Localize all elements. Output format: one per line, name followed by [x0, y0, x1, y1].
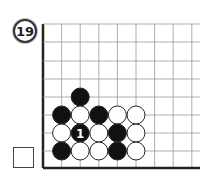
white-stone — [53, 124, 71, 142]
white-stone — [127, 124, 145, 142]
white-stone-shape — [90, 142, 108, 160]
white-stone — [90, 124, 108, 142]
white-stone — [127, 106, 145, 124]
move-number-label: 1 — [76, 127, 84, 141]
white-stone-shape — [127, 106, 145, 124]
black-stone — [90, 106, 108, 124]
black-stone-shape — [53, 106, 71, 124]
white-stone — [108, 106, 126, 124]
white-stone — [71, 106, 89, 124]
black-stone-shape — [108, 124, 126, 142]
white-stone-shape — [71, 142, 89, 160]
black-stone — [53, 142, 71, 160]
white-stone — [71, 142, 89, 160]
black-stone — [108, 124, 126, 142]
white-stone-shape — [71, 106, 89, 124]
black-stone — [71, 88, 89, 106]
black-stone — [108, 142, 126, 160]
black-stone — [53, 106, 71, 124]
white-stone — [127, 142, 145, 160]
white-stone-shape — [127, 124, 145, 142]
go-board: 1 — [0, 0, 217, 182]
black-stone: 1 — [71, 124, 89, 142]
black-stone-shape — [108, 142, 126, 160]
white-stone-shape — [53, 124, 71, 142]
black-stone-shape — [90, 106, 108, 124]
white-stone-shape — [108, 106, 126, 124]
white-stone-shape — [127, 142, 145, 160]
black-stone-shape — [71, 88, 89, 106]
white-stone-shape — [90, 124, 108, 142]
black-stone-shape — [53, 142, 71, 160]
white-stone — [90, 142, 108, 160]
